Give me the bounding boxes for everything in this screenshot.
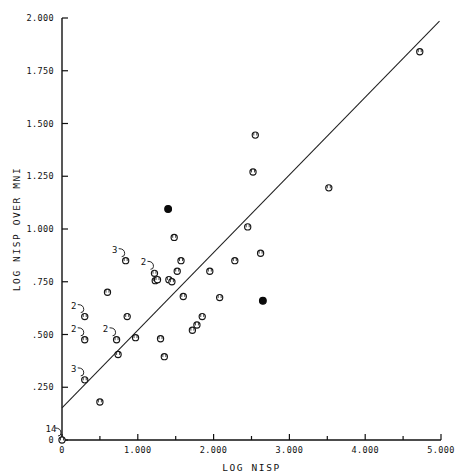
data-point [171,234,177,240]
data-point: 2 [141,257,158,276]
data-point [178,258,184,264]
y-tick-label: 1.250 [26,171,54,181]
regression-line [62,21,439,408]
y-tick-label: 1.750 [26,66,54,76]
open-circle-marker [171,234,177,240]
open-circle-marker [59,437,65,443]
data-point [174,268,180,274]
y-axis-title: LOG NISP OVER MNI [11,167,22,291]
open-circle-marker [115,351,121,357]
open-circle-marker [82,377,88,383]
open-circle-marker [178,258,184,264]
data-point [217,294,223,300]
count-leader-line [147,261,153,269]
data-point [157,336,163,342]
y-tick-label: .500 [32,330,54,340]
data-point: 2 [71,301,88,320]
open-circle-marker [169,279,175,285]
data-point [189,327,195,333]
data-point [180,293,186,299]
data-point [97,399,103,405]
open-circle-marker [154,277,160,283]
point-count-label: 14 [46,424,57,434]
x-tick-label: 1.000 [124,445,152,455]
open-circle-marker [174,268,180,274]
open-circle-marker [199,313,205,319]
data-point: 3 [112,245,129,264]
point-count-label: 2 [141,257,146,267]
open-circle-marker [82,313,88,319]
y-tick-label: .250 [32,382,54,392]
data-point [132,335,138,341]
count-leader-line [78,305,84,313]
data-point: 2 [103,324,120,343]
plot-canvas: 01.0002.0003.0004.0005.0000.250.500.7501… [0,0,462,474]
data-point [207,268,213,274]
x-axis-title: LOG NISP [222,462,281,473]
data-point [232,258,238,264]
open-circle-marker [180,293,186,299]
x-tick-label: 0 [59,445,65,455]
open-circle-marker [245,224,251,230]
data-point [326,185,332,191]
x-tick-label: 3.000 [276,445,304,455]
data-point [257,250,263,256]
open-circle-marker [207,268,213,274]
point-count-label: 3 [71,364,76,374]
open-circle-marker [326,185,332,191]
data-point [259,297,266,304]
open-circle-marker [257,250,263,256]
open-circle-marker [124,313,130,319]
data-point [199,313,205,319]
open-circle-marker [232,258,238,264]
count-leader-line [119,249,125,257]
data-point [124,313,130,319]
data-point: 2 [71,324,88,343]
open-circle-marker [132,335,138,341]
open-circle-marker [157,336,163,342]
point-count-label: 2 [71,324,76,334]
data-point [154,277,160,283]
count-leader-line [78,328,84,336]
count-leader-line [110,328,116,336]
point-count-label: 3 [112,245,117,255]
open-circle-marker [104,289,110,295]
open-circle-marker [189,327,195,333]
data-point [250,169,256,175]
open-circle-marker [161,354,167,360]
filled-circle-marker [259,297,266,304]
data-point [161,354,167,360]
y-tick-label: 0 [48,435,54,445]
data-point [115,351,121,357]
scatter-plot-figure: 01.0002.0003.0004.0005.0000.250.500.7501… [0,0,462,474]
open-circle-marker [97,399,103,405]
y-tick-label: 2.000 [26,13,54,23]
y-tick-label: 1.000 [26,224,54,234]
filled-circle-marker [165,206,172,213]
open-circle-marker [217,294,223,300]
x-tick-label: 2.000 [200,445,228,455]
point-count-label: 2 [103,324,108,334]
open-circle-marker [417,49,423,55]
x-tick-label: 5.000 [427,445,455,455]
data-point [165,206,172,213]
data-point [252,132,258,138]
data-point [245,224,251,230]
open-circle-marker [123,258,129,264]
data-point [417,49,423,55]
point-count-label: 2 [71,301,76,311]
y-tick-label: .750 [32,277,54,287]
count-leader-line [78,368,84,376]
open-circle-marker [250,169,256,175]
open-circle-marker [151,270,157,276]
data-point [169,279,175,285]
open-circle-marker [194,322,200,328]
open-circle-marker [113,337,119,343]
x-tick-label: 4.000 [351,445,379,455]
open-circle-marker [82,337,88,343]
open-circle-marker [252,132,258,138]
y-tick-label: 1.500 [26,119,54,129]
data-point: 3 [71,364,88,383]
data-point [194,322,200,328]
data-point [104,289,110,295]
